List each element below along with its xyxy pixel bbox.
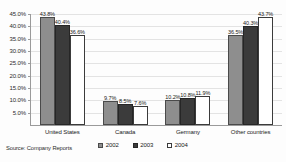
legend-swatch-icon-2002	[98, 143, 103, 148]
bar[interactable]: 43.8%	[40, 17, 55, 125]
plot-area: 5.0%10.0%15.0%20.0%25.0%30.0%35.0%40.0%4…	[30, 14, 282, 126]
bar-group-bars: 10.2%10.8%11.9%	[165, 14, 210, 125]
legend-item-2002[interactable]: 2002	[98, 142, 118, 148]
bar-value-label: 8.5%	[119, 98, 131, 104]
legend-label-2002: 2002	[106, 142, 119, 148]
bar-value-label: 9.7%	[104, 95, 116, 101]
x-axis-category-label: Germany	[176, 129, 200, 136]
legend-item-2003[interactable]: 2003	[133, 142, 153, 148]
x-axis-category-label: United States	[45, 129, 80, 136]
bar-group-bars: 9.7%8.5%7.6%	[103, 14, 148, 125]
legend-item-2004[interactable]: 2004	[167, 142, 187, 148]
bar-value-label: 36.5%	[228, 29, 243, 35]
bar-group-bars: 36.5%40.3%43.7%	[228, 14, 273, 125]
bar-group: 43.8%40.4%36.6%United States	[31, 14, 94, 125]
bar-group: 10.2%10.8%11.9%Germany	[157, 14, 220, 125]
bar-value-label: 36.6%	[70, 29, 85, 35]
bar[interactable]: 7.6%	[133, 106, 148, 125]
bar-value-label: 10.2%	[165, 94, 180, 100]
bar[interactable]: 9.7%	[103, 101, 118, 125]
legend-label-2004: 2004	[175, 142, 188, 148]
y-axis-label: 40.0%	[9, 23, 26, 29]
y-axis-label: 15.0%	[9, 85, 26, 91]
y-axis-label: 20.0%	[9, 73, 26, 79]
bar-value-label: 40.3%	[243, 20, 258, 26]
bar-group-bars: 43.8%40.4%36.6%	[40, 14, 85, 125]
bar-value-label: 43.7%	[258, 11, 273, 17]
source-note: Source: Company Reports	[6, 145, 72, 152]
bar-value-label: 11.9%	[196, 90, 211, 96]
bar[interactable]: 8.5%	[118, 104, 133, 125]
legend-swatch-icon-2004	[167, 143, 172, 148]
y-axis-label: 45.0%	[9, 11, 26, 17]
bar[interactable]: 11.9%	[195, 96, 210, 125]
bar[interactable]: 40.4%	[55, 25, 70, 125]
y-axis-label: 30.0%	[9, 48, 26, 54]
legend-label-2003: 2003	[140, 142, 153, 148]
bar[interactable]: 40.3%	[243, 26, 258, 125]
bar-value-label: 10.8%	[180, 92, 195, 98]
bar-value-label: 7.6%	[134, 100, 146, 106]
bar[interactable]: 10.2%	[165, 100, 180, 125]
legend-swatch-icon-2003	[133, 143, 138, 148]
bar[interactable]: 36.6%	[70, 35, 85, 125]
bar[interactable]: 36.5%	[228, 35, 243, 125]
bar-chart: 5.0%10.0%15.0%20.0%25.0%30.0%35.0%40.0%4…	[0, 0, 286, 162]
y-axis-label: 35.0%	[9, 36, 26, 42]
bar-value-label: 43.8%	[40, 11, 55, 17]
y-axis-label: 10.0%	[9, 97, 26, 103]
bar-group: 36.5%40.3%43.7%Other countries	[219, 14, 282, 125]
y-axis-label: 5.0%	[13, 110, 26, 116]
y-axis-label: 25.0%	[9, 60, 26, 66]
bar-value-label: 40.4%	[55, 19, 70, 25]
bars-layer: 43.8%40.4%36.6%United States9.7%8.5%7.6%…	[31, 14, 282, 125]
x-axis-category-label: Other countries	[231, 129, 271, 136]
bar-group: 9.7%8.5%7.6%Canada	[94, 14, 157, 125]
bar[interactable]: 43.7%	[258, 17, 273, 125]
x-axis-category-label: Canada	[115, 129, 135, 136]
bar[interactable]: 10.8%	[180, 98, 195, 125]
